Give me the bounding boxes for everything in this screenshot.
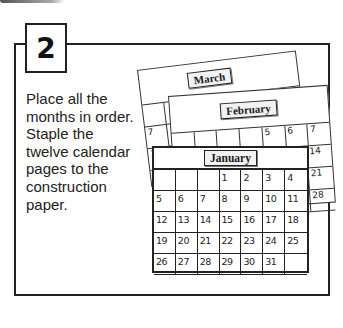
january-date-cell: 10 [263,191,285,212]
top-edge-smudge [0,0,65,3]
january-date-cell: 11 [285,191,307,212]
january-date-cell: 14 [198,212,220,233]
january-date-cell: 17 [263,212,285,233]
january-date-cell: 29 [220,254,242,275]
february-date: 7 [308,123,331,145]
january-date-cell: 7 [198,191,220,212]
january-date-cell: 6 [176,191,198,212]
january-date-cell: 23 [241,233,263,254]
january-date-cell: 30 [241,254,263,275]
january-date-cell: 31 [263,254,285,275]
february-date: 28 [310,189,335,212]
january-date-cell: 21 [198,233,220,254]
january-date-cell: 13 [176,212,198,233]
january-date-cell: 15 [220,212,242,233]
january-date-cell: 5 [154,191,176,212]
january-date-cell: 28 [198,254,220,275]
february-date: 21 [309,167,334,190]
february-date: 14 [307,145,332,168]
january-date-cell: 18 [285,212,307,233]
january-date-cell [154,170,176,191]
january-date-cell: 12 [154,212,176,233]
january-date-cell: 8 [220,191,242,212]
month-label-march: March [187,68,232,89]
january-date-cell: 2 [241,170,263,191]
january-date-cell: 16 [241,212,263,233]
january-date-cell: 4 [285,170,307,191]
january-date-cell [176,170,198,191]
january-date-cell [285,254,307,275]
january-date-cell: 9 [241,191,263,212]
january-date-cell: 19 [154,233,176,254]
january-date-cell: 25 [285,233,307,254]
january-date-cell: 26 [154,254,176,275]
february-date: 6 [285,124,309,147]
january-date-cell: 27 [176,254,198,275]
january-date-cell: 22 [220,233,242,254]
january-date-cell: 3 [263,170,285,191]
step-number-box: 2 [25,23,67,73]
month-label-january: January [204,150,257,166]
month-label-february: February [220,99,278,119]
january-date-cell [198,170,220,191]
calendar-page-january: January 12345678910111213141516171819202… [152,146,309,273]
january-date-cell: 24 [263,233,285,254]
january-grid: 1234567891011121314151617181920212223242… [154,168,307,275]
step-number: 2 [36,32,55,65]
instructions-text: Place all the months in order. Staple th… [26,90,136,213]
march-date: 7 [145,125,169,149]
january-date-cell: 20 [176,233,198,254]
january-date-cell: 1 [220,170,242,191]
